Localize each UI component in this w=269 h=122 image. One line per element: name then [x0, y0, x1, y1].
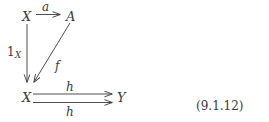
- commutative-diagram-figure: X A X Y a 1X f h h (9.1.12): [0, 0, 269, 122]
- edge-label-identity: 1X: [7, 46, 21, 60]
- node-x-top: X: [22, 10, 31, 23]
- node-y-bottom: Y: [117, 91, 126, 104]
- edge-label-identity-base: 1: [7, 45, 15, 59]
- node-a-top: A: [66, 10, 75, 23]
- equation-number: (9.1.12): [196, 99, 244, 113]
- node-x-bottom: X: [22, 91, 31, 104]
- edge-label-identity-subscript: X: [15, 50, 21, 60]
- edge-label-a: a: [42, 1, 49, 13]
- edge-label-h-upper: h: [66, 81, 74, 93]
- arrow-f: [34, 23, 70, 82]
- edge-label-f: f: [55, 60, 59, 72]
- edge-label-h-lower: h: [66, 106, 74, 118]
